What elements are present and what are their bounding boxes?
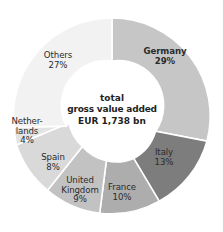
donut-chart: Germany 29% Italy 13% France 10% United …	[0, 0, 223, 232]
donut-slices	[13, 18, 210, 214]
slice-others[interactable]	[13, 18, 112, 127]
donut-chart-svg	[0, 0, 223, 232]
slice-germany[interactable]	[112, 18, 210, 141]
